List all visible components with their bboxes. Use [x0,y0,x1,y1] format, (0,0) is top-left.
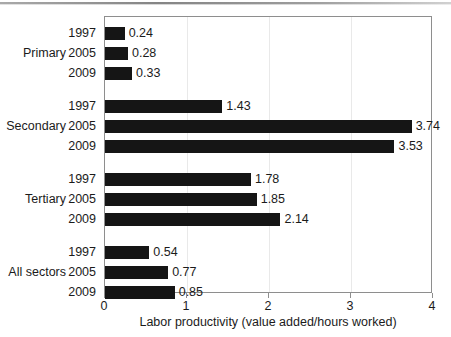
bar [105,120,412,133]
bar [105,47,128,60]
bar [105,100,222,113]
bar-value-label: 0.33 [136,67,160,80]
year-label: 2009 [0,140,96,153]
group-label: Primary [0,47,66,60]
bar [105,67,132,80]
bar-value-label: 0.77 [172,266,196,279]
x-tick-mark-3 [350,293,351,298]
bar-value-label: 0.85 [179,286,203,299]
x-tick-label-0: 0 [94,299,114,313]
x-tick-label-4: 4 [422,299,442,313]
bar-chart-figure: 0.240.280.331.433.743.531.781.852.140.54… [0,0,451,337]
bar [105,173,251,186]
bar-value-label: 1.85 [261,193,285,206]
x-tick-label-3: 3 [340,299,360,313]
bar [105,27,125,40]
gridline-1 [187,17,188,292]
bar-value-label: 3.53 [398,140,422,153]
bar-value-label: 0.54 [153,246,177,259]
bar [105,213,280,226]
group-label: All sectors [0,266,66,279]
year-label: 2009 [0,67,96,80]
bar [105,193,257,206]
year-label: 1997 [0,173,96,186]
x-tick-mark-4 [432,293,433,298]
year-label: 2009 [0,213,96,226]
bar-value-label: 2.14 [284,213,308,226]
bar [105,286,175,299]
x-tick-label-2: 2 [258,299,278,313]
bar-value-label: 1.78 [255,173,279,186]
year-label: 1997 [0,27,96,40]
year-label: 1997 [0,246,96,259]
bar [105,246,149,259]
bar-value-label: 0.28 [132,47,156,60]
gridline-3 [351,17,352,292]
bar-value-label: 3.74 [416,120,440,133]
gridline-2 [269,17,270,292]
group-label: Secondary [0,120,66,133]
x-tick-mark-1 [186,293,187,298]
x-tick-mark-0 [104,293,105,298]
scan-artifact-line-secondary [0,4,451,5]
year-label: 1997 [0,100,96,113]
group-label: Tertiary [0,193,66,206]
bar [105,140,394,153]
bar-value-label: 1.43 [226,100,250,113]
x-tick-label-1: 1 [176,299,196,313]
x-axis-title: Labor productivity (value added/hours wo… [104,315,432,330]
bar-value-label: 0.24 [129,27,153,40]
year-label: 2009 [0,286,96,299]
x-tick-mark-2 [268,293,269,298]
bar [105,266,168,279]
